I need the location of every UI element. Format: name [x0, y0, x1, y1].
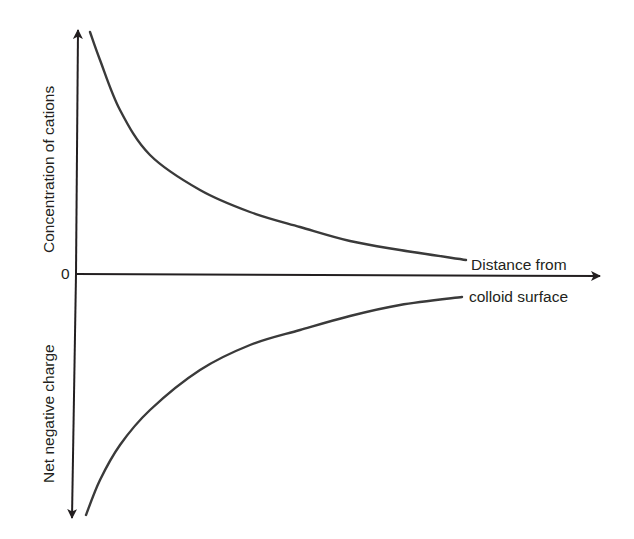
origin-label: 0 — [61, 266, 70, 282]
x-axis — [76, 274, 600, 276]
y-axis-negative-label: Net negative charge — [41, 344, 57, 483]
cation-concentration-curve — [90, 32, 466, 260]
y-axis-down — [72, 274, 76, 518]
x-axis-label-line1: Distance from — [471, 257, 567, 273]
y-axis-positive-label: Concentration of cations — [41, 86, 57, 253]
y-axis-up — [76, 30, 78, 274]
net-negative-charge-curve — [86, 297, 462, 515]
x-axis-label-line2: colloid surface — [469, 289, 568, 305]
